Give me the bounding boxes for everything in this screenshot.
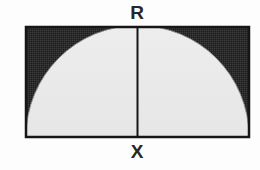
label-r: R (117, 3, 157, 22)
label-x: X (117, 142, 157, 161)
geometry-figure: R X (0, 0, 260, 170)
